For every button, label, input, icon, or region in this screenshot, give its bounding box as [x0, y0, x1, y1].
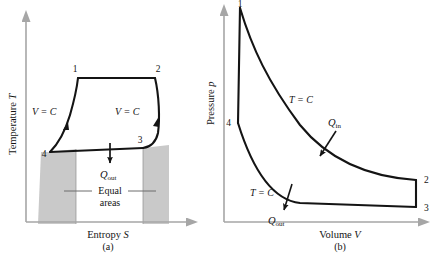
panel-a-y-axis-title-text: Temperature	[7, 102, 18, 155]
equal-areas-line-1: Equal	[98, 185, 122, 196]
panel-a-caption: (a)	[102, 241, 113, 253]
process-2-3-constant-volume-right	[143, 78, 159, 148]
panel-b-x-axis-title-text: Volume	[319, 229, 352, 240]
panel-b-isotherm-label-lower: T = C	[250, 187, 274, 198]
panel-b: 1 2 3 4 T = C Qin T = C Qout Pressure p	[205, 0, 429, 253]
panel-a-x-axis-title: Entropy S	[87, 229, 129, 240]
panel-b-heat-out-label: Qout	[268, 215, 285, 228]
panel-a-x-axis-title-symbol: S	[124, 229, 130, 240]
q-in-sub: in	[336, 122, 342, 130]
process-3-4-isotherm-bottom	[50, 148, 143, 152]
q-out-arrow-b	[284, 184, 292, 210]
panel-b-point-4: 4	[226, 118, 231, 128]
panel-a-process-label-right: V = C	[115, 106, 140, 117]
figure-root: 1 2 3 4 V = C V = C Qout Equal areas Tem…	[0, 0, 434, 254]
panel-a-point-4: 4	[42, 149, 47, 159]
q-out-sub-b: out	[276, 220, 285, 228]
panel-b-y-axis-title-symbol: p	[205, 82, 216, 88]
panel-a-point-2: 2	[156, 64, 161, 74]
panel-b-y-axis-title-text: Pressure	[205, 89, 216, 125]
panel-a-point-3: 3	[138, 135, 143, 145]
panel-b-y-axis-title: Pressure p	[205, 82, 216, 125]
panel-b-caption: (b)	[334, 241, 346, 253]
panel-a-y-axis-title-symbol: T	[7, 92, 18, 99]
shaded-band-right	[143, 145, 169, 224]
process-1-2-isotherm-upper	[240, 8, 416, 180]
shaded-band-left-foot	[38, 152, 50, 224]
shaded-band-left	[50, 149, 76, 224]
panel-b-x-axis-title-symbol: V	[354, 229, 362, 240]
panel-b-point-1: 1	[238, 0, 243, 9]
panel-a-x-axis-title-text: Entropy	[87, 229, 122, 240]
direction-arrow-right-curve	[153, 118, 159, 127]
panel-b-x-axis-title: Volume V	[319, 229, 362, 240]
panel-a-heat-out-label: Qout	[100, 169, 117, 182]
process-4-1-constant-volume-b	[238, 8, 240, 123]
panel-b-isotherm-label-upper: T = C	[289, 94, 313, 105]
panel-b-heat-in-label: Qin	[328, 117, 342, 130]
panel-b-point-3: 3	[424, 203, 429, 213]
thermodynamic-cycle-figure: 1 2 3 4 V = C V = C Qout Equal areas Tem…	[0, 0, 434, 254]
panel-b-point-2: 2	[424, 175, 429, 185]
equal-areas-line-2: areas	[100, 197, 121, 208]
direction-arrow-left-curve	[63, 122, 69, 130]
panel-a-process-label-left: V = C	[32, 106, 57, 117]
panel-a-y-axis-title: Temperature T	[7, 92, 18, 155]
q-sub-a: out	[108, 174, 117, 182]
panel-a: 1 2 3 4 V = C V = C Qout Equal areas Tem…	[7, 22, 186, 253]
panel-a-point-1: 1	[73, 64, 78, 74]
